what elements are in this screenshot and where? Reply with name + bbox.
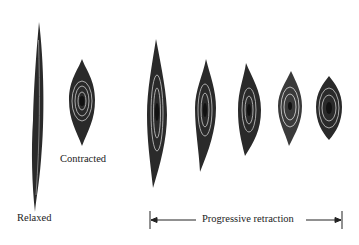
retraction-cell-3 <box>238 63 261 156</box>
retraction-cell-2 <box>195 59 216 172</box>
relaxed-cell <box>32 22 44 212</box>
retraction-cell-4 <box>278 71 302 146</box>
diagram-drawing <box>0 0 359 245</box>
retraction-cell-1 <box>147 39 167 188</box>
label-contracted: Contracted <box>60 153 106 164</box>
contracted-cell <box>69 59 95 146</box>
retraction-cell-5 <box>316 76 342 140</box>
muscle-cell-diagram: Contracted Relaxed Progressive retractio… <box>0 0 359 245</box>
label-progressive-retraction: Progressive retraction <box>202 213 294 224</box>
label-relaxed: Relaxed <box>17 212 51 223</box>
